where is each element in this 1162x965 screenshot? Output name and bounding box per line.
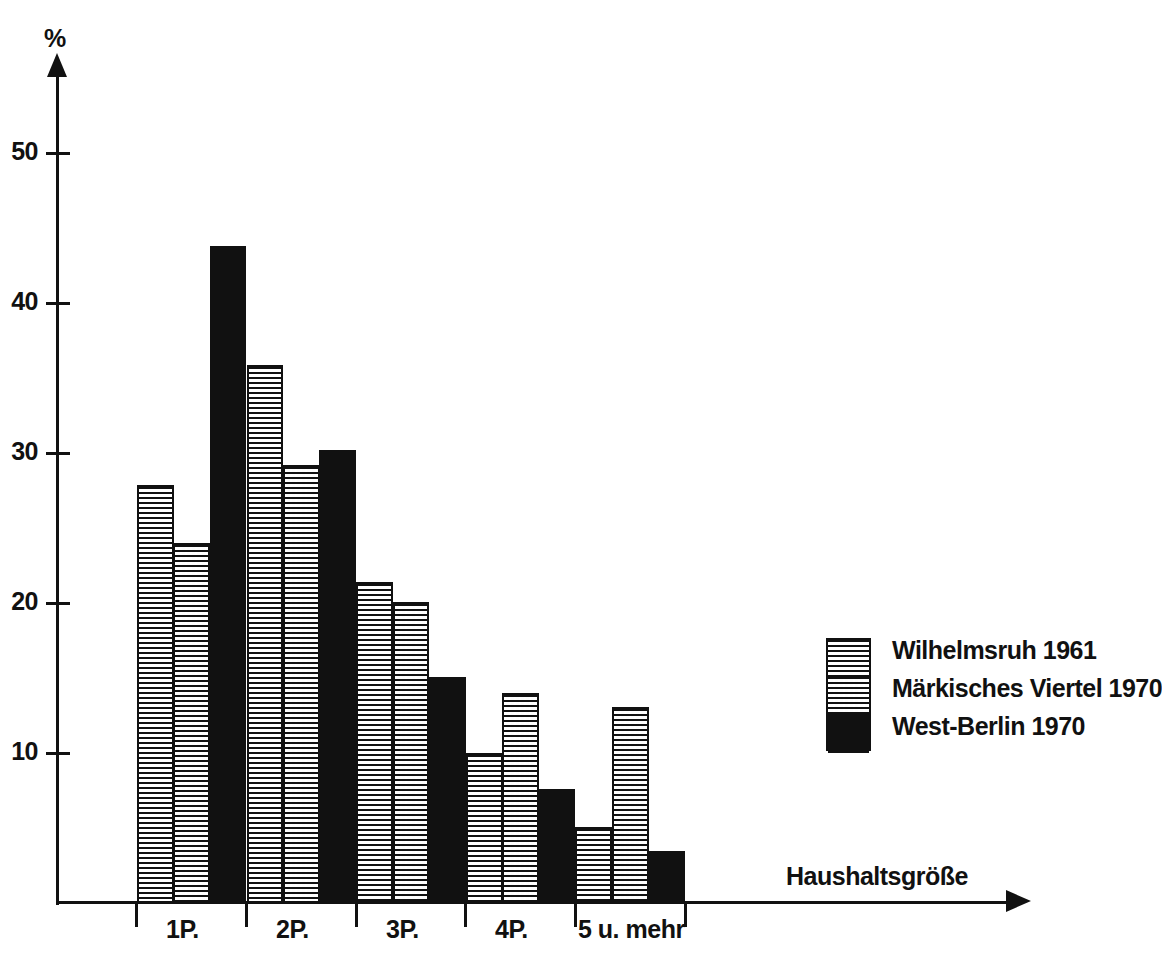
- bar-maerkisches-viertel-group-5: [612, 707, 649, 904]
- y-tick-label-40: 40: [0, 287, 38, 316]
- legend-label-west-berlin: West-Berlin 1970: [892, 712, 1085, 741]
- bar-west-berlin-group-4: [538, 789, 575, 903]
- y-axis-line: [56, 68, 59, 905]
- bar-wilhelmsruh-group-5: [575, 827, 612, 904]
- x-tick-label-3p: 3P.: [386, 915, 419, 944]
- legend-swatch-band-west-berlin: [828, 714, 869, 753]
- x-tick-4: [574, 904, 577, 927]
- legend-label-wilhelmsruh: Wilhelmsruh 1961: [892, 636, 1096, 665]
- x-tick-label-2p: 2P.: [276, 915, 309, 944]
- y-axis-arrow-icon: [47, 53, 67, 77]
- y-tick-label-30: 30: [0, 437, 38, 466]
- y-tick-label-50: 50: [0, 137, 38, 166]
- bar-west-berlin-group-2: [319, 450, 356, 903]
- y-tick-30: [46, 452, 70, 455]
- bar-maerkisches-viertel-group-1: [173, 543, 210, 903]
- legend-swatch: [826, 638, 871, 751]
- x-axis-title: Haushaltsgröße: [786, 862, 968, 891]
- y-axis-unit-label: %: [44, 24, 66, 53]
- bar-wilhelmsruh-group-4: [466, 753, 503, 903]
- bar-maerkisches-viertel-group-2: [283, 465, 320, 903]
- y-tick-50: [46, 152, 70, 155]
- x-tick-3: [464, 904, 467, 927]
- bar-wilhelmsruh-group-2: [247, 365, 284, 904]
- bar-maerkisches-viertel-group-4: [502, 693, 539, 903]
- y-tick-20: [46, 602, 70, 605]
- bar-maerkisches-viertel-group-3: [393, 602, 430, 904]
- y-tick-label-10: 10: [0, 737, 38, 766]
- bar-west-berlin-group-5: [648, 851, 685, 904]
- x-tick-label-5-u-mehr: 5 u. mehr: [578, 915, 685, 944]
- bar-wilhelmsruh-group-3: [356, 582, 393, 903]
- legend-label-maerkisches-viertel: Märkisches Viertel 1970: [892, 674, 1162, 703]
- bar-wilhelmsruh-group-1: [137, 485, 174, 904]
- bar-west-berlin-group-3: [429, 677, 466, 904]
- x-tick-label-4p: 4P.: [495, 915, 528, 944]
- y-tick-10: [46, 752, 70, 755]
- x-tick-label-1p: 1P.: [166, 915, 199, 944]
- y-tick-label-20: 20: [0, 587, 38, 616]
- legend-swatch-band-wilhelmsruh: [828, 640, 869, 677]
- y-tick-40: [46, 302, 70, 305]
- x-axis-arrow-icon: [1006, 890, 1031, 912]
- x-tick-0: [135, 904, 138, 927]
- x-tick-1: [245, 904, 248, 927]
- bar-west-berlin-group-1: [210, 246, 247, 903]
- x-tick-2: [355, 904, 358, 927]
- legend-swatch-band-maerkisches-viertel: [828, 677, 869, 714]
